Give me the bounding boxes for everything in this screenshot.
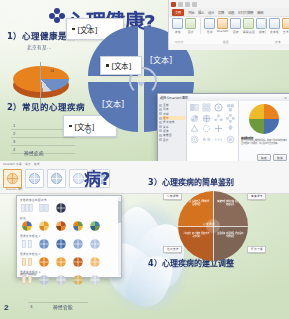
undo-icon[interactable] — [178, 2, 183, 7]
tab-insert[interactable]: 插入 — [198, 10, 204, 15]
layout-thumb[interactable] — [213, 124, 224, 133]
layout-thumb[interactable] — [189, 124, 200, 133]
ok-button[interactable]: 确定 — [257, 154, 271, 161]
dialog-category-list[interactable]: 全部 列表 流程 循环 层次结构 关系 矩阵 棱锥图 图片 — [158, 101, 187, 161]
scrollbar-thumb[interactable] — [118, 201, 121, 223]
quick-access-toolbar[interactable] — [171, 1, 197, 7]
gallery-row[interactable] — [17, 256, 121, 268]
color-swatch[interactable] — [20, 202, 34, 214]
callout-top-left[interactable]: 认知调整 — [163, 193, 182, 200]
tab-review[interactable]: 审阅 — [257, 10, 263, 15]
callout-bottom-left[interactable]: 社会支持 — [163, 246, 182, 253]
tab-design[interactable]: 设计 — [208, 10, 214, 15]
chart-button[interactable]: 图表 — [230, 18, 241, 34]
color-swatch[interactable] — [20, 220, 34, 232]
tab-format[interactable]: 格式 — [34, 162, 40, 166]
tab-animations[interactable]: 动画 — [228, 10, 234, 15]
gallery-scrollbar[interactable] — [118, 197, 121, 276]
color-swatch[interactable] — [88, 256, 102, 268]
cancel-button[interactable]: 取消 — [273, 154, 287, 161]
smartart-button[interactable]: SmartArt — [217, 18, 228, 34]
save-icon[interactable] — [171, 2, 176, 7]
gallery-row[interactable] — [17, 238, 121, 250]
color-swatch[interactable] — [37, 202, 51, 214]
layout-thumb[interactable] — [201, 135, 212, 144]
layout-thumb[interactable] — [225, 124, 236, 133]
selection-handle[interactable] — [86, 129, 91, 134]
contextual-tab-strip[interactable]: SmartArt 工具 设计 格式 — [3, 162, 40, 166]
style-item[interactable] — [47, 169, 66, 188]
pie-label: 14 — [50, 69, 54, 73]
layout-thumb[interactable] — [213, 114, 224, 123]
ribbon-tab-strip[interactable]: 文件 开始 插入 设计 切换 动画 幻灯片放映 审阅 — [169, 8, 289, 17]
layout-thumb[interactable] — [213, 103, 224, 112]
tab-transitions[interactable]: 切换 — [218, 10, 224, 15]
color-swatch[interactable] — [37, 256, 51, 268]
picture-button[interactable]: 图片 — [185, 18, 196, 34]
close-icon[interactable]: ✕ — [284, 96, 287, 100]
layout-thumb[interactable] — [201, 103, 212, 112]
callout-bottom-right[interactable]: 行为习惯 — [247, 246, 266, 253]
color-swatch[interactable] — [71, 220, 85, 232]
color-swatch[interactable] — [54, 202, 68, 214]
gallery-row[interactable] — [17, 220, 121, 232]
chart-icon — [230, 18, 241, 29]
layout-thumb[interactable] — [225, 114, 236, 123]
psychological-adjustment-diagram[interactable]: 自我认识 接纳自己 调整期望 合理归因 情绪管理 放松训练 倾诉宣泄 转移注意 … — [178, 191, 248, 261]
color-swatch[interactable] — [54, 256, 68, 268]
gallery-row[interactable] — [17, 274, 121, 286]
smartart-layout-grid[interactable] — [187, 101, 238, 161]
selection-handle[interactable] — [86, 24, 91, 29]
style-item-selected[interactable] — [3, 169, 22, 188]
gallery-footer-link[interactable]: 其他主题填充颜色 — [20, 272, 36, 276]
title-decoration-icon — [49, 8, 66, 24]
color-swatch[interactable] — [54, 238, 68, 250]
smartart-chooser-dialog[interactable]: 选择 SmartArt 图形 ✕ 全部 列表 流程 循环 层次结构 关系 矩阵 … — [157, 93, 289, 161]
tab-home[interactable]: 开始 — [188, 10, 194, 15]
button-label: 形状 — [207, 30, 213, 34]
ribbon-group-text: 文本框 艺术字 — [269, 18, 289, 34]
color-swatch[interactable] — [88, 274, 102, 286]
customize-icon[interactable] — [192, 2, 197, 7]
layout-thumb[interactable] — [225, 103, 236, 112]
bullet-icon — [69, 125, 72, 128]
style-item[interactable] — [25, 169, 44, 188]
color-swatch[interactable] — [71, 274, 85, 286]
screenshot-button[interactable]: 屏幕截图 — [243, 18, 254, 34]
color-swatch[interactable] — [71, 256, 85, 268]
wordart-button[interactable]: 艺术字 — [282, 18, 289, 34]
button-label: 图片 — [188, 30, 194, 34]
layout-thumb[interactable] — [189, 135, 200, 144]
tab-smartart-tools[interactable]: SmartArt 工具 — [3, 162, 22, 166]
tab-slideshow[interactable]: 幻灯片放映 — [238, 10, 253, 15]
color-swatch[interactable] — [20, 274, 34, 286]
color-swatch[interactable] — [37, 274, 51, 286]
color-swatch[interactable] — [37, 238, 51, 250]
layout-thumb[interactable] — [213, 135, 224, 144]
layout-thumb[interactable] — [225, 135, 236, 144]
layout-thumb[interactable] — [189, 103, 200, 112]
layout-thumb[interactable] — [189, 114, 200, 123]
color-gallery-dropdown[interactable]: 文档的最佳匹配对象 彩色 强调文字颜色 1 — [16, 195, 122, 278]
color-swatch[interactable] — [88, 238, 102, 250]
tab-file[interactable]: 文件 — [172, 9, 184, 16]
color-swatch[interactable] — [54, 274, 68, 286]
layout-thumb[interactable] — [201, 124, 212, 133]
textbox-button[interactable]: 文本框 — [269, 18, 280, 34]
tab-design[interactable]: 设计 — [25, 162, 31, 166]
callout-top-right[interactable]: 情绪调节 — [247, 193, 266, 200]
color-swatch[interactable] — [54, 220, 68, 232]
color-swatch[interactable] — [20, 238, 34, 250]
color-swatch[interactable] — [37, 220, 51, 232]
redo-icon[interactable] — [185, 2, 190, 7]
layout-thumb[interactable] — [201, 114, 212, 123]
gallery-row[interactable] — [17, 202, 121, 214]
shapes-button[interactable]: 形状 — [204, 18, 215, 34]
color-swatch[interactable] — [71, 238, 85, 250]
color-swatch[interactable] — [20, 256, 34, 268]
category-icon — [159, 117, 162, 120]
text-placeholder-box[interactable]: [文本] — [100, 56, 142, 75]
color-swatch[interactable] — [88, 220, 102, 232]
category-picture[interactable]: 图片 — [159, 137, 185, 141]
table-button[interactable]: 表格 — [172, 18, 183, 34]
